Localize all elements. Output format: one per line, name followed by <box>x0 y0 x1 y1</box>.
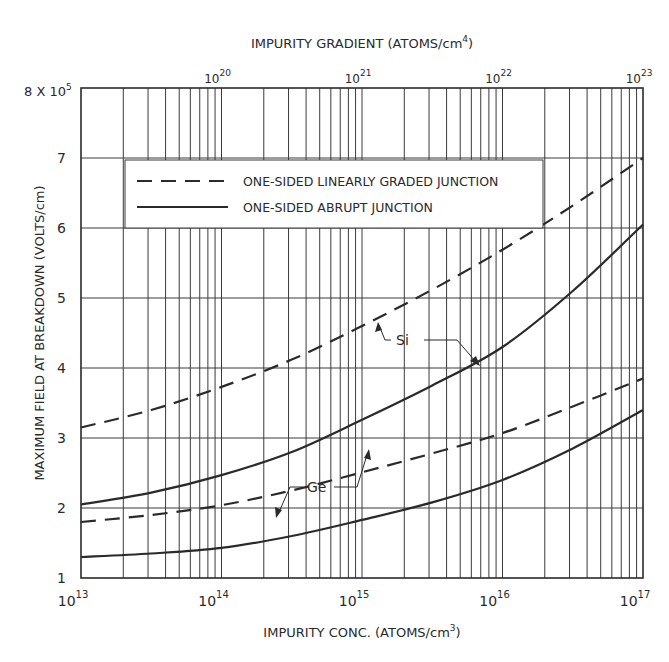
si-arrow-graded <box>379 325 391 340</box>
si-arrow-abrupt <box>424 340 476 362</box>
ge-arrowhead-graded-icon <box>364 449 371 460</box>
x-tick-label: 1016 <box>479 589 510 609</box>
y-tick-label: 5 <box>57 290 66 306</box>
annotation-si: Si <box>396 332 409 348</box>
y-tick-label: 4 <box>57 360 66 376</box>
legend-label-linearly-graded: ONE-SIDED LINEARLY GRADED JUNCTION <box>243 174 498 189</box>
y-axis-ticks: 1234567 <box>57 150 66 586</box>
top-tick-label: 1022 <box>485 68 512 86</box>
legend: ONE-SIDED LINEARLY GRADED JUNCTION ONE-S… <box>125 160 543 228</box>
annotation-ge: Ge <box>307 479 326 495</box>
y-top-multiplier: 8 X 105 <box>24 82 72 99</box>
y-tick-label: 6 <box>57 220 66 236</box>
top-axis-ticks: 1020102110221023 <box>204 68 652 86</box>
x-tick-label: 1013 <box>58 589 89 609</box>
top-tick-label: 1021 <box>345 68 372 86</box>
x-tick-label: 1014 <box>198 589 229 609</box>
y-tick-label: 1 <box>57 570 66 586</box>
top-tick-label: 1020 <box>204 68 231 86</box>
y-tick-label: 3 <box>57 430 66 446</box>
x-axis-ticks: 10131014101510161017 <box>58 589 651 609</box>
legend-label-abrupt: ONE-SIDED ABRUPT JUNCTION <box>243 200 433 215</box>
top-tick-label: 1023 <box>626 68 653 86</box>
y-tick-label: 7 <box>57 150 66 166</box>
top-axis-label: IMPURITY GRADIENT (ATOMS/cm4) <box>251 34 473 51</box>
x-tick-label: 1015 <box>339 589 370 609</box>
y-tick-label: 2 <box>57 500 66 516</box>
x-axis-label: IMPURITY CONC. (ATOMS/cm3) <box>263 623 460 640</box>
x-tick-label: 1017 <box>620 589 651 609</box>
y-axis-label: MAXIMUM FIELD AT BREAKDOWN (VOLTS/cm) <box>32 185 47 480</box>
breakdown-field-chart: ONE-SIDED LINEARLY GRADED JUNCTION ONE-S… <box>0 0 669 662</box>
